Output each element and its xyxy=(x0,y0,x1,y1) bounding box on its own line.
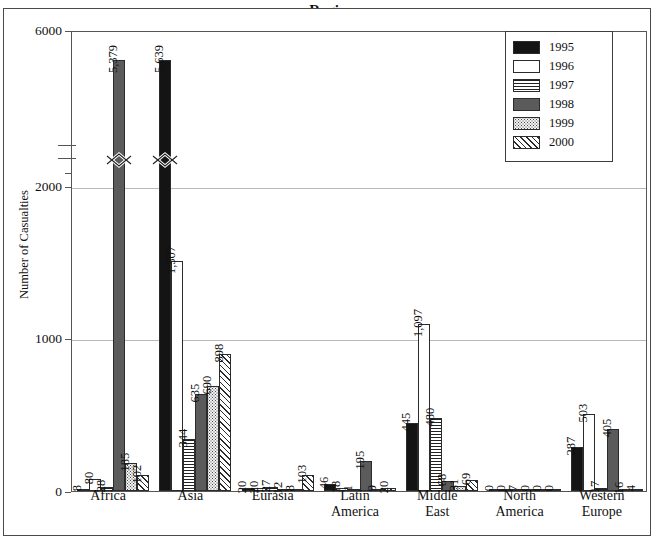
legend-item-1998[interactable]: 1998 xyxy=(513,95,605,114)
legend-swatch-diagonal-hatch-icon xyxy=(513,136,540,149)
legend-label: 2000 xyxy=(549,136,574,149)
legend: 199519961997199819992000 xyxy=(505,31,613,162)
legend-swatch-horizontal-lines-icon xyxy=(513,79,540,92)
y-tick-label-1000: 1000 xyxy=(35,332,62,345)
legend-item-1996[interactable]: 1996 xyxy=(513,57,605,76)
bar-group: 5,6391,507344635690898 xyxy=(154,32,236,491)
bar-group: 46181195920 xyxy=(319,32,401,491)
y-tick-label-0: 0 xyxy=(55,485,62,498)
legend-label: 1996 xyxy=(549,60,574,73)
bar-value-label: 480 xyxy=(424,407,436,426)
x-axis-category-label: Africa xyxy=(67,488,149,504)
y-tick-label-2000: 2000 xyxy=(35,180,62,193)
bar-value-label: 898 xyxy=(213,344,225,363)
bar-1995[interactable]: 5,639 xyxy=(159,60,171,491)
bar-value-label: 69 xyxy=(460,473,472,486)
bar-1999[interactable]: 690 xyxy=(207,386,219,491)
legend-label: 1995 xyxy=(549,41,574,54)
bar-value-label: 5,379 xyxy=(107,45,119,73)
legend-item-2000[interactable]: 2000 xyxy=(513,133,605,152)
x-axis-category-label: Eurasia xyxy=(232,488,314,504)
bar-1995[interactable]: 445 xyxy=(406,423,418,491)
y-axis-break-marker xyxy=(58,141,76,163)
legend-swatch-solid-black-icon xyxy=(513,41,540,54)
x-axis-category-label: North America xyxy=(478,488,560,520)
bar-1996[interactable]: 503 xyxy=(583,414,595,491)
legend-swatch-solid-white-icon xyxy=(513,60,540,73)
bar-value-label: 503 xyxy=(577,404,589,423)
bar-value-label: 344 xyxy=(177,428,189,447)
bar-value-label: 102 xyxy=(131,465,143,484)
bar-break-marker xyxy=(106,150,132,172)
x-axis-category-label: Middle East xyxy=(396,488,478,520)
legend-item-1997[interactable]: 1997 xyxy=(513,76,605,95)
bar-value-label: 405 xyxy=(601,419,613,438)
bar-1998[interactable]: 5,379 xyxy=(113,60,125,491)
legend-item-1995[interactable]: 1995 xyxy=(513,38,605,57)
legend-item-1999[interactable]: 1999 xyxy=(513,114,605,133)
bar-1996[interactable]: 1,507 xyxy=(171,261,183,491)
bar-1997[interactable]: 344 xyxy=(183,439,195,491)
bar-value-label: 690 xyxy=(201,375,213,394)
legend-label: 1997 xyxy=(549,79,574,92)
y-axis-title: Number of Casualties xyxy=(17,160,32,330)
bar-group: 880285,379185102 xyxy=(72,32,154,491)
x-axis-category-label: Latin America xyxy=(314,488,396,520)
bar-value-label: 1,507 xyxy=(165,246,177,274)
x-axis-category-label: Western Europe xyxy=(561,488,643,520)
y-tick-label-6000: 6000 xyxy=(35,24,62,37)
bar-value-label: 195 xyxy=(354,451,366,470)
y-axis: Number of Casualties 0100020006000 xyxy=(4,9,71,541)
bar-1995[interactable]: 287 xyxy=(571,447,583,491)
bar-2000[interactable]: 898 xyxy=(219,354,231,491)
bar-value-label: 445 xyxy=(400,413,412,432)
bar-value-label: 5,639 xyxy=(153,45,165,73)
bar-value-label: 287 xyxy=(565,437,577,456)
bar-group: 4451,097480683169 xyxy=(401,32,483,491)
bar-break-marker xyxy=(152,150,178,172)
bar-group: 202027128103 xyxy=(237,32,319,491)
legend-swatch-solid-gray-icon xyxy=(513,98,540,111)
legend-swatch-stipple-dots-icon xyxy=(513,117,540,130)
legend-label: 1998 xyxy=(549,98,574,111)
bar-1998[interactable]: 635 xyxy=(195,394,207,491)
legend-label: 1999 xyxy=(549,117,574,130)
bar-value-label: 103 xyxy=(296,465,308,484)
chart-title: y Region, xyxy=(0,0,657,8)
bar-value-label: 1,097 xyxy=(412,309,424,337)
x-axis-category-label: Asia xyxy=(149,488,231,504)
